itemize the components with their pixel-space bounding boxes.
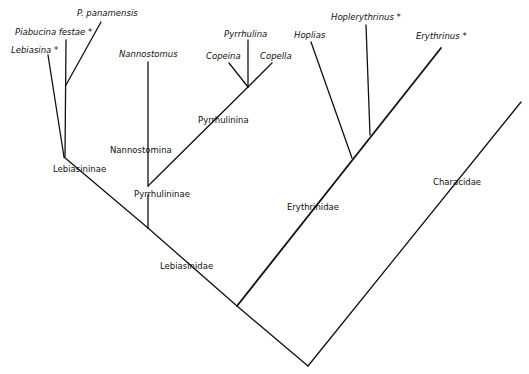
taxon-label-copella: Copella (260, 52, 292, 61)
branch-root-left (237, 306, 308, 366)
branch-lebiasina (48, 55, 64, 157)
branch-characidae (308, 102, 521, 366)
clade-label-pyrrhulininae: Pyrrhulininae (134, 190, 190, 199)
clade-label-lebiasininae: Lebiasininae (53, 165, 106, 174)
branch-copeina (229, 63, 248, 87)
taxon-label-p-panamensis: P. panamensis (77, 9, 138, 18)
taxon-label-hoplerythrinus: Hoplerythrinus * (331, 13, 401, 22)
clade-label-nannostomina: Nannostomina (110, 146, 172, 155)
clade-label-pyrrhulinina: Pyrrhulinina (198, 116, 249, 125)
taxon-label-erythrinus: Erythrinus * (416, 32, 467, 41)
clade-label-characidae: Characidae (433, 178, 481, 187)
taxon-label-nannostomus: Nannostomus (119, 50, 178, 59)
branch-copella (248, 63, 272, 87)
taxon-label-piabucina-festae: Piabucina festae * (15, 28, 92, 37)
branch-erythrinidae (237, 48, 441, 306)
taxon-label-hoplias: Hoplias (294, 31, 325, 40)
clade-label-erythrinidae: Erythrinidae (287, 203, 339, 212)
taxon-label-pyrrhulina: Pyrrhulina (224, 30, 267, 39)
branch-hoplerythrinus (366, 25, 370, 135)
branch-pyrrhulinina (148, 87, 248, 186)
clade-label-lebiasinidae: Lebiasinidae (160, 262, 213, 271)
taxon-label-lebiasina: Lebiasina * (11, 46, 58, 55)
branch-hoplias (311, 42, 352, 158)
taxon-label-copeina: Copeina (206, 52, 241, 61)
branch-piabucina (65, 40, 66, 157)
